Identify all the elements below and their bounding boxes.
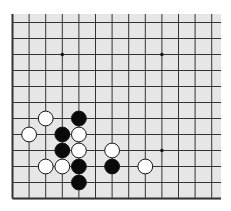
white-stone[interactable] bbox=[138, 159, 153, 174]
go-board-grid bbox=[0, 0, 231, 211]
white-stone[interactable] bbox=[22, 127, 37, 142]
star-point bbox=[61, 53, 65, 57]
black-stone[interactable] bbox=[72, 175, 87, 190]
star-point bbox=[160, 53, 164, 57]
white-stone[interactable] bbox=[72, 143, 87, 158]
black-stone[interactable] bbox=[105, 159, 120, 174]
white-stone[interactable] bbox=[55, 159, 70, 174]
black-stone[interactable] bbox=[72, 159, 87, 174]
white-stone[interactable] bbox=[72, 127, 87, 142]
black-stone[interactable] bbox=[55, 127, 70, 142]
black-stone[interactable] bbox=[72, 111, 87, 126]
black-stone[interactable] bbox=[55, 143, 70, 158]
white-stone[interactable] bbox=[38, 111, 53, 126]
star-point bbox=[160, 149, 164, 153]
white-stone[interactable] bbox=[38, 159, 53, 174]
white-stone[interactable] bbox=[105, 143, 120, 158]
